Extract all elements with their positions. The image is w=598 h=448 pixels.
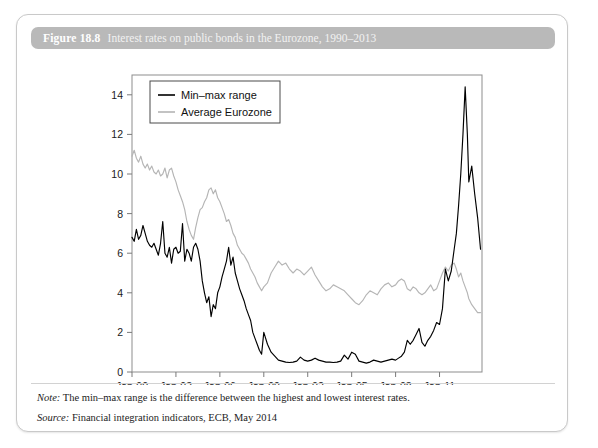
figure-number: Figure 18.8 bbox=[43, 32, 101, 44]
y-tick-label: 12 bbox=[111, 128, 123, 140]
y-tick-label: 10 bbox=[111, 168, 123, 180]
legend-label-min-max-range: Min–max range bbox=[181, 89, 257, 101]
series-line-average-eurozone bbox=[132, 150, 481, 312]
source-label: Source: bbox=[37, 412, 69, 423]
chart-legend: Min–max range Average Eurozone bbox=[150, 81, 280, 123]
figure-caption-text: Interest rates on public bonds in the Eu… bbox=[108, 32, 377, 44]
interest-rate-line-chart: 02468101214 Jan-90Jan-93Jan-96Jan-99Jan-… bbox=[17, 55, 569, 385]
y-tick-label: 4 bbox=[117, 287, 123, 299]
y-axis-ticks: 02468101214 bbox=[111, 89, 132, 378]
series-line-min-max-range bbox=[132, 87, 481, 363]
y-tick-label: 14 bbox=[111, 89, 123, 101]
y-tick-label: 6 bbox=[117, 247, 123, 259]
legend-label-average-eurozone: Average Eurozone bbox=[181, 106, 272, 118]
chart-plot-area: 02468101214 Jan-90Jan-93Jan-96Jan-99Jan-… bbox=[17, 55, 569, 385]
note-label: Note: bbox=[37, 392, 60, 403]
notes-divider bbox=[31, 383, 555, 384]
figure-card: Figure 18.8 Interest rates on public bon… bbox=[16, 14, 568, 432]
y-tick-label: 8 bbox=[117, 208, 123, 220]
source-text: Financial integration indicators, ECB, M… bbox=[72, 412, 277, 423]
note-text: The min–max range is the difference betw… bbox=[63, 392, 410, 403]
y-tick-label: 2 bbox=[117, 326, 123, 338]
source-row: Source: Financial integration indicators… bbox=[37, 412, 277, 423]
figure-caption-bar: Figure 18.8 Interest rates on public bon… bbox=[31, 27, 555, 49]
note-row: Note: The min–max range is the differenc… bbox=[37, 392, 410, 403]
y-tick-label: 0 bbox=[117, 366, 123, 378]
